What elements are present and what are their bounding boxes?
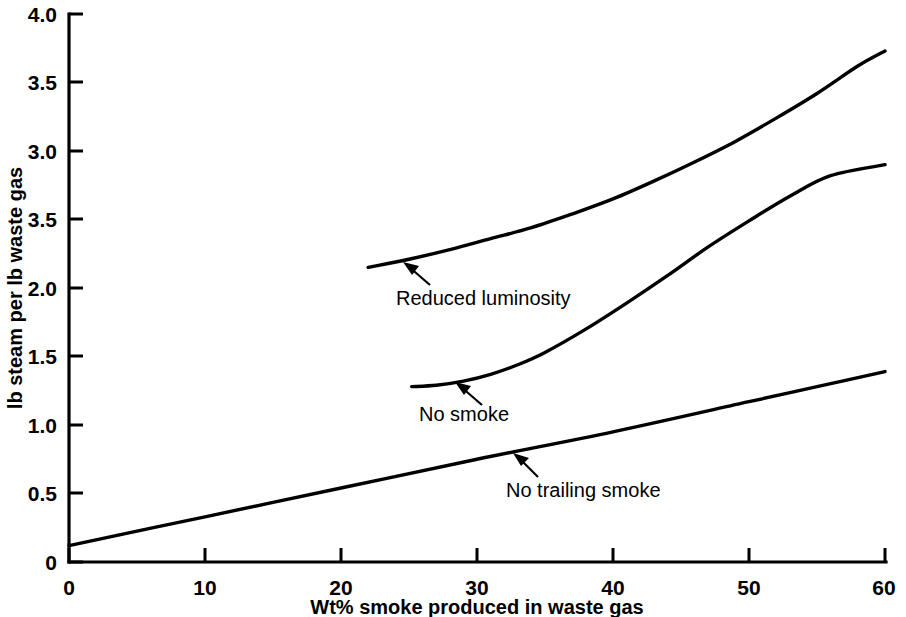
annotation-no-trailing-smoke: No trailing smoke	[506, 479, 661, 501]
curve-no-smoke	[412, 165, 885, 387]
y-tick-label-1_5: 1.5	[28, 345, 58, 368]
annotation-no-smoke: No smoke	[419, 403, 509, 425]
leader-reduced-luminosity	[403, 262, 430, 285]
y-axis-ticks	[69, 14, 83, 562]
y-tick-label-3_5: 3.5	[28, 71, 58, 94]
y-tick-label-2_5: 3.5	[28, 208, 58, 231]
y-axis-tick-labels: 4.0 3.5 3.0 3.5 2.0 1.5 1.0 0.5 0	[28, 3, 58, 574]
curve-no-trailing-smoke	[69, 372, 885, 546]
y-tick-label-2_0: 2.0	[28, 277, 57, 300]
leader-no-trailing-smoke	[513, 453, 538, 477]
x-tick-label-10: 10	[193, 576, 216, 599]
y-tick-label-4_0: 4.0	[28, 3, 57, 26]
x-tick-label-0: 0	[63, 576, 75, 599]
x-tick-label-50: 50	[737, 576, 760, 599]
x-axis-title: Wt% smoke produced in waste gas	[310, 596, 643, 617]
curve-reduced-luminosity	[368, 51, 885, 267]
x-axis-ticks	[69, 548, 885, 562]
y-tick-label-0_5: 0.5	[28, 482, 58, 505]
chart-plot-area: 4.0 3.5 3.0 3.5 2.0 1.5 1.0 0.5 0 0 10 2…	[0, 0, 906, 617]
x-tick-label-60: 60	[872, 576, 895, 599]
y-axis-title: lb steam per lb waste gas	[4, 167, 26, 409]
leader-no-smoke	[455, 382, 482, 405]
y-tick-label-0: 0	[45, 551, 57, 574]
y-tick-label-3_0: 3.0	[28, 140, 57, 163]
chart-figure: 4.0 3.5 3.0 3.5 2.0 1.5 1.0 0.5 0 0 10 2…	[0, 0, 906, 617]
annotation-reduced-luminosity: Reduced luminosity	[396, 287, 571, 309]
y-tick-label-1_0: 1.0	[28, 414, 57, 437]
